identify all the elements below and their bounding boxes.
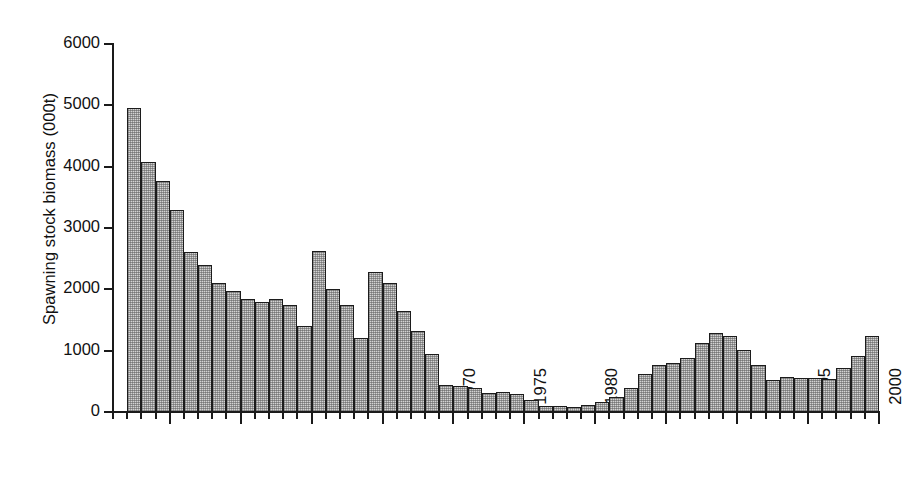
x-tick-1987	[694, 412, 696, 419]
x-tick-1994	[793, 412, 795, 419]
bar-1949	[156, 181, 170, 412]
bar-1985	[666, 363, 680, 412]
x-tick-1997	[835, 412, 837, 419]
bar-1964	[368, 272, 382, 412]
x-tick-1985	[665, 412, 667, 424]
x-tick-1980	[594, 412, 596, 424]
x-tick-1992	[765, 412, 767, 419]
bar-1997	[836, 368, 850, 412]
x-tick-1972	[481, 412, 483, 419]
x-tick-1949	[155, 412, 157, 419]
bar-1952	[198, 265, 212, 412]
bar-1971	[468, 388, 482, 412]
x-tick-1967	[410, 412, 412, 419]
x-tick-1978	[566, 412, 568, 419]
bar-1988	[709, 333, 723, 412]
y-tick-3000	[104, 227, 113, 229]
bar-1962	[340, 305, 354, 412]
x-tick-1950	[169, 412, 171, 424]
bar-1981	[609, 397, 623, 412]
x-tick-2000	[878, 412, 880, 424]
x-tick-1963	[353, 412, 355, 419]
bar-1961	[326, 289, 340, 412]
x-tick-1974	[509, 412, 511, 419]
x-tick-1973	[495, 412, 497, 419]
x-tick-1946	[112, 412, 114, 419]
x-tick-1952	[197, 412, 199, 419]
bar-1999	[865, 336, 879, 412]
bar-1950	[170, 210, 184, 412]
bar-1998	[851, 356, 865, 412]
x-tick-1958	[282, 412, 284, 419]
bar-1957	[269, 299, 283, 412]
bar-1972	[482, 393, 496, 412]
y-tick-1000	[104, 350, 113, 352]
bar-1989	[723, 336, 737, 412]
x-tick-1964	[367, 412, 369, 419]
bar-1993	[780, 377, 794, 412]
y-tick-4000	[104, 166, 113, 168]
y-tick-label-4000: 4000	[40, 156, 100, 175]
x-tick-1947	[126, 412, 128, 419]
x-tick-1979	[580, 412, 582, 419]
x-tick-1959	[296, 412, 298, 419]
bar-1992	[766, 380, 780, 413]
bar-1995	[808, 378, 822, 412]
x-tick-label-2000: 2000	[886, 368, 904, 424]
x-tick-1982	[623, 412, 625, 419]
plot-area	[113, 44, 879, 412]
bar-1970	[453, 386, 467, 412]
bar-1948	[141, 162, 155, 412]
bar-1977	[553, 406, 567, 412]
bar-1954	[226, 291, 240, 412]
bar-1974	[510, 394, 524, 412]
bar-1983	[638, 374, 652, 412]
x-tick-1993	[779, 412, 781, 419]
bar-1955	[241, 299, 255, 412]
x-tick-1969	[438, 412, 440, 419]
y-tick-label-1000: 1000	[40, 340, 100, 359]
bar-1986	[680, 358, 694, 412]
bar-1966	[397, 311, 411, 412]
x-tick-1975	[523, 412, 525, 424]
x-tick-1968	[424, 412, 426, 419]
bar-1947	[127, 108, 141, 412]
y-tick-label-6000: 6000	[40, 33, 100, 52]
y-axis-tick-labels: 0100020003000400050006000	[28, 0, 100, 485]
bar-1978	[567, 407, 581, 412]
bar-1967	[411, 331, 425, 412]
x-tick-1957	[268, 412, 270, 419]
bar-1987	[695, 343, 709, 412]
bar-1991	[751, 365, 765, 412]
x-tick-1988	[708, 412, 710, 419]
chart-figure: Spawning stock biomass (000t) 0100020003…	[0, 0, 921, 485]
bar-1963	[354, 338, 368, 412]
x-tick-1977	[552, 412, 554, 419]
x-tick-1965	[382, 412, 384, 424]
bar-1956	[255, 302, 269, 412]
bar-1968	[425, 354, 439, 412]
y-tick-label-2000: 2000	[40, 278, 100, 297]
bar-1969	[439, 385, 453, 412]
bar-1979	[581, 405, 595, 412]
bar-1984	[652, 365, 666, 412]
bar-1958	[283, 305, 297, 412]
x-tick-1953	[211, 412, 213, 419]
bar-1960	[312, 251, 326, 412]
x-tick-1995	[807, 412, 809, 424]
x-tick-1983	[637, 412, 639, 419]
x-tick-1962	[339, 412, 341, 419]
bar-1990	[737, 350, 751, 412]
x-tick-1984	[651, 412, 653, 419]
y-tick-label-0: 0	[40, 401, 100, 420]
bar-1973	[496, 392, 510, 412]
y-tick-label-3000: 3000	[40, 217, 100, 236]
x-tick-1999	[864, 412, 866, 419]
x-tick-1998	[850, 412, 852, 419]
bar-1982	[624, 388, 638, 412]
bar-1994	[794, 378, 808, 412]
bar-1975	[524, 400, 538, 412]
bar-1965	[383, 283, 397, 412]
x-tick-1970	[452, 412, 454, 424]
bar-1980	[595, 402, 609, 412]
